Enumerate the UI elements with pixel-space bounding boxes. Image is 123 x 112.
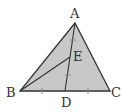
label-d: D xyxy=(61,95,71,110)
triangle-diagram: A B C D E xyxy=(0,0,123,112)
triangle-abc xyxy=(20,23,110,91)
label-a: A xyxy=(69,6,80,21)
label-e: E xyxy=(73,49,83,64)
label-b: B xyxy=(6,85,16,100)
label-c: C xyxy=(111,85,121,100)
